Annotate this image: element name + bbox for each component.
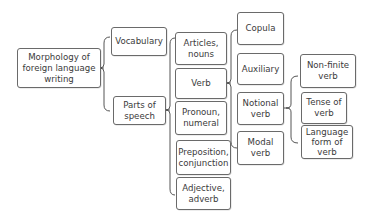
node-adjective-adverb: Adjective, adverb [176, 177, 231, 210]
node-language-form-line-1: Language [306, 127, 348, 137]
node-pronoun-line-1: Pronoun, [182, 107, 220, 118]
node-verb-label: Verb [191, 78, 211, 89]
node-articles-nouns: Articles, nouns [175, 32, 227, 65]
node-adjective-line-1: Adjective, [182, 183, 224, 194]
node-preposition-line-1: Preposition, [178, 147, 228, 158]
node-verb: Verb [175, 68, 227, 99]
brace-verb [227, 30, 237, 148]
node-non-finite-line-2: verb [307, 71, 349, 82]
node-parts-of-speech-line-2: speech [123, 111, 155, 122]
node-vocabulary-label: Vocabulary [115, 36, 163, 47]
node-vocabulary: Vocabulary [111, 27, 167, 56]
node-non-finite-line-1: Non-finite [307, 60, 349, 71]
node-modal-verb: Modal verb [237, 131, 284, 165]
node-tense-line-1: Tense of [306, 97, 341, 108]
node-articles-nouns-line-2: nouns [184, 49, 219, 60]
node-pronoun-line-2: numeral [182, 118, 220, 129]
node-language-form-line-3: verb [306, 147, 348, 157]
node-modal-line-1: Modal [248, 137, 274, 148]
node-auxiliary-label: Auxiliary [242, 64, 279, 75]
node-non-finite-verb: Non-finite verb [300, 54, 356, 88]
node-root-line-1: Morphology of [23, 52, 96, 63]
brace-root [100, 37, 110, 111]
node-language-form-of-verb: Language form of verb [301, 125, 353, 159]
node-root: Morphology of foreign language writing [17, 48, 101, 88]
node-modal-line-2: verb [248, 148, 274, 159]
node-adjective-line-2: adverb [182, 194, 224, 205]
node-copula: Copula [237, 12, 284, 45]
brace-notional-verb [284, 76, 298, 143]
node-tense-line-2: verb [306, 108, 341, 119]
node-root-line-2: foreign language [23, 63, 96, 74]
node-articles-nouns-line-1: Articles, [184, 38, 219, 49]
node-root-line-3: writing [23, 74, 96, 85]
node-parts-of-speech: Parts of speech [113, 96, 166, 125]
node-notional-line-1: Notional [243, 98, 279, 109]
node-pronoun-numeral: Pronoun, numeral [175, 101, 227, 135]
node-language-form-line-2: form of [306, 137, 348, 147]
node-auxiliary: Auxiliary [237, 53, 284, 85]
node-parts-of-speech-line-1: Parts of [123, 100, 155, 111]
node-preposition-line-2: conjunction [178, 158, 228, 169]
node-copula-label: Copula [246, 23, 276, 34]
node-notional-line-2: verb [243, 109, 279, 120]
brace-parts-of-speech [166, 38, 175, 195]
node-preposition-conjunction: Preposition, conjunction [176, 140, 231, 175]
node-notional-verb: Notional verb [237, 92, 284, 125]
node-tense-of-verb: Tense of verb [301, 92, 347, 124]
